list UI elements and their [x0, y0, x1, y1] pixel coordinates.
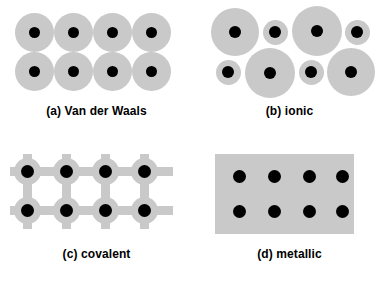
anion-core [229, 26, 241, 38]
cation-core [351, 26, 363, 38]
metal-ion-core [303, 170, 316, 183]
atom-core [107, 66, 118, 77]
cation-core [222, 66, 234, 78]
atom-core [68, 27, 79, 38]
metal-ion-core [268, 205, 281, 218]
metal-ion-core [268, 170, 281, 183]
covalent-atom-core [138, 204, 151, 217]
metal-ion-core [303, 205, 316, 218]
metal-ion-core [233, 170, 246, 183]
atom-core [29, 66, 40, 77]
metal-ion-core [336, 170, 349, 183]
metal-ion-core [336, 205, 349, 218]
bonding-types-figure: (a) Van der Waals (b) ionic [0, 0, 386, 287]
van-der-waals-diagram [0, 0, 193, 105]
panel-caption-ionic: (b) ionic [193, 104, 386, 118]
atom-core [146, 66, 157, 77]
panel-van-der-waals: (a) Van der Waals [0, 0, 193, 143]
panel-caption-van-der-waals: (a) Van der Waals [0, 104, 193, 118]
covalent-atom-core [99, 204, 112, 217]
panel-metallic: (d) metallic [193, 144, 386, 287]
covalent-atom-core [60, 165, 73, 178]
atom-core [68, 66, 79, 77]
cation-core [269, 26, 281, 38]
panel-caption-metallic: (d) metallic [193, 247, 386, 261]
covalent-diagram [0, 144, 193, 249]
panel-caption-covalent: (c) covalent [0, 247, 193, 261]
anion-core [264, 67, 276, 79]
metallic-diagram [193, 144, 386, 249]
atom-core [29, 27, 40, 38]
metal-ion-core [233, 205, 246, 218]
electron-sea [215, 154, 354, 234]
covalent-atom-core [21, 165, 34, 178]
anion-core [345, 66, 357, 78]
covalent-atom-core [21, 204, 34, 217]
atom-core [146, 27, 157, 38]
panel-covalent: (c) covalent [0, 144, 193, 287]
panel-ionic: (b) ionic [193, 0, 386, 143]
cation-core [305, 66, 317, 78]
ionic-diagram [193, 0, 386, 105]
covalent-atom-core [99, 165, 112, 178]
atom-core [107, 27, 118, 38]
anion-core [311, 25, 323, 37]
covalent-atom-core [138, 165, 151, 178]
covalent-atom-core [60, 204, 73, 217]
